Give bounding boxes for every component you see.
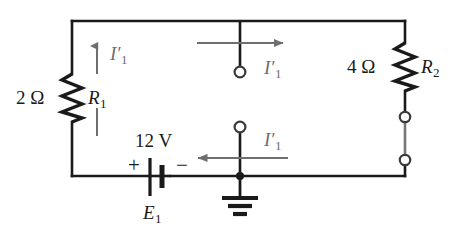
battery-e1-symbol (150, 158, 171, 196)
current-left-sub: 1 (120, 52, 127, 67)
current-bottom-sub: 1 (274, 138, 281, 153)
bottom-probe-terminal-icon[interactable] (235, 122, 246, 133)
current-label-top-branch: I′1 (264, 58, 281, 80)
ground-symbol (222, 172, 258, 214)
resistor-r2-symbol (395, 43, 415, 91)
circuit-diagram-canvas: 2 Ω R1 4 Ω R2 12 V + − E1 I′1 I′1 I′1 (0, 0, 463, 245)
top-probe-terminal-icon[interactable] (235, 67, 246, 78)
resistor-r1-name-main: R (88, 87, 100, 108)
source-plus-sign: + (128, 155, 140, 176)
right-break-terminals (400, 112, 410, 165)
resistor-r1-name-label: R1 (88, 88, 107, 110)
source-name-main: E (143, 202, 155, 223)
resistor-r1-value-label: 2 Ω (16, 88, 44, 107)
top-probe (235, 21, 246, 77)
current-label-bottom-branch: I′1 (264, 130, 281, 152)
current-top-sub: 1 (274, 66, 281, 81)
circuit-schematic (0, 0, 463, 245)
resistor-r2-name-label: R2 (421, 57, 440, 79)
source-minus-sign: − (176, 155, 188, 176)
source-value-label: 12 V (135, 131, 172, 150)
bottom-probe (235, 122, 246, 176)
resistor-r2-name-main: R (421, 56, 433, 77)
source-name-label: E1 (143, 203, 162, 225)
resistor-r2-value-label: 4 Ω (347, 57, 375, 76)
right-upper-terminal-icon[interactable] (400, 112, 410, 122)
source-name-sub: 1 (155, 211, 162, 226)
right-lower-terminal-icon[interactable] (400, 155, 410, 165)
resistor-r1-symbol (62, 74, 82, 122)
resistor-r1-name-sub: 1 (100, 96, 107, 111)
resistor-r2-name-sub: 2 (433, 65, 440, 80)
current-label-left-branch: I′1 (110, 44, 127, 66)
